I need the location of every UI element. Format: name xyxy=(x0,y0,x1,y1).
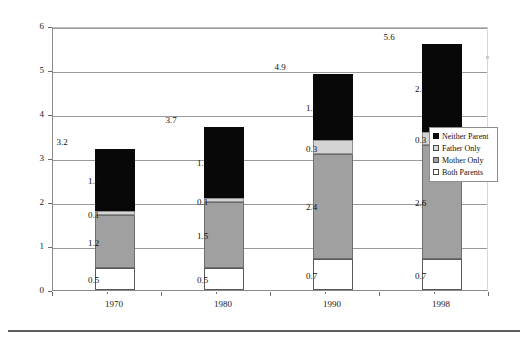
bar-segment-mother xyxy=(313,154,353,260)
legend-label: Father Only xyxy=(442,144,480,153)
x-axis-tick-label: 1990 xyxy=(302,299,362,309)
bar-segment-mother xyxy=(95,215,135,268)
y-axis-tick-label: 6 xyxy=(4,22,44,31)
bar-total-label: 3.7 xyxy=(151,115,191,125)
legend-label: Neither Parent xyxy=(442,132,488,141)
legend-item-both-parents[interactable]: Both Parents xyxy=(433,166,497,178)
legend-swatch-icon xyxy=(433,157,439,163)
bar-segment-neither xyxy=(204,127,244,197)
x-axis-tick-mark xyxy=(325,292,326,294)
x-axis-tick-mark xyxy=(379,292,380,296)
bar-segment-mother xyxy=(204,202,244,268)
segment-value-label: 2.6 xyxy=(415,198,426,208)
y-axis-tick-label: 1 xyxy=(4,242,44,251)
bar-total-label: 4.9 xyxy=(260,62,300,72)
segment-value-label: 1.5 xyxy=(306,103,317,113)
segment-value-label: 0.7 xyxy=(415,271,426,281)
segment-value-label: 0.3 xyxy=(306,144,317,154)
footer-divider xyxy=(8,330,520,332)
x-axis-tick-label: 1980 xyxy=(193,299,253,309)
legend-item-neither-parent[interactable]: Neither Parent xyxy=(433,130,497,142)
bar-total-label: 3.2 xyxy=(42,137,82,147)
segment-value-label: 2.0 xyxy=(415,84,426,94)
bar-1980 xyxy=(204,26,244,290)
segment-value-label: 0.3 xyxy=(415,135,426,145)
x-axis-tick-mark xyxy=(107,292,108,294)
segment-value-label: 0.5 xyxy=(197,275,208,285)
bar-segment-neither xyxy=(422,44,462,132)
y-axis-tick-label: 4 xyxy=(4,110,44,119)
x-axis-tick-mark xyxy=(488,292,489,296)
bar-segment-neither xyxy=(95,149,135,211)
legend: Neither ParentFather OnlyMother OnlyBoth… xyxy=(429,127,498,182)
y-axis-tick-label: 3 xyxy=(4,154,44,163)
segment-value-label: 1.4 xyxy=(88,176,99,186)
segment-value-label: 2.4 xyxy=(306,202,317,212)
legend-swatch-icon xyxy=(433,133,439,139)
bar-segment-both xyxy=(422,259,462,290)
legend-swatch-icon xyxy=(433,145,439,151)
legend-label: Mother Only xyxy=(442,156,484,165)
segment-value-label: 0.1 xyxy=(88,210,99,220)
y-axis-tick-label: 2 xyxy=(4,198,44,207)
bar-segment-both xyxy=(204,268,244,290)
bar-segment-father xyxy=(95,211,135,215)
x-axis-tick-mark xyxy=(434,292,435,294)
x-axis-tick-label: 1998 xyxy=(411,299,471,309)
segment-value-label: 0.7 xyxy=(306,271,317,281)
stray-artifact xyxy=(486,56,489,59)
x-axis-tick-mark xyxy=(52,292,53,296)
bar-segment-neither xyxy=(313,74,353,140)
bar-segment-both xyxy=(95,268,135,290)
bar-1970 xyxy=(95,26,135,290)
x-axis-tick-label: 1970 xyxy=(84,299,144,309)
bar-segment-father xyxy=(204,198,244,202)
bar-1990 xyxy=(313,26,353,290)
segment-value-label: 0.1 xyxy=(197,197,208,207)
legend-item-mother-only[interactable]: Mother Only xyxy=(433,154,497,166)
bar-total-label: 5.6 xyxy=(369,32,409,42)
bar-segment-father xyxy=(313,140,353,153)
segment-value-label: 0.5 xyxy=(88,275,99,285)
y-axis-tick-label: 0 xyxy=(4,286,44,295)
stacked-bar-chart: Percent of children under 18 0123456 197… xyxy=(0,0,528,346)
bar-segment-both xyxy=(313,259,353,290)
legend-item-father-only[interactable]: Father Only xyxy=(433,142,497,154)
segment-value-label: 1.5 xyxy=(197,231,208,241)
segment-value-label: 1.6 xyxy=(197,158,208,168)
segment-value-label: 1.2 xyxy=(88,238,99,248)
legend-label: Both Parents xyxy=(442,168,483,177)
x-axis-tick-mark xyxy=(161,292,162,296)
legend-swatch-icon xyxy=(433,169,439,175)
x-axis-tick-mark xyxy=(270,292,271,296)
y-axis-tick-label: 5 xyxy=(4,66,44,75)
x-axis-tick-mark xyxy=(216,292,217,294)
